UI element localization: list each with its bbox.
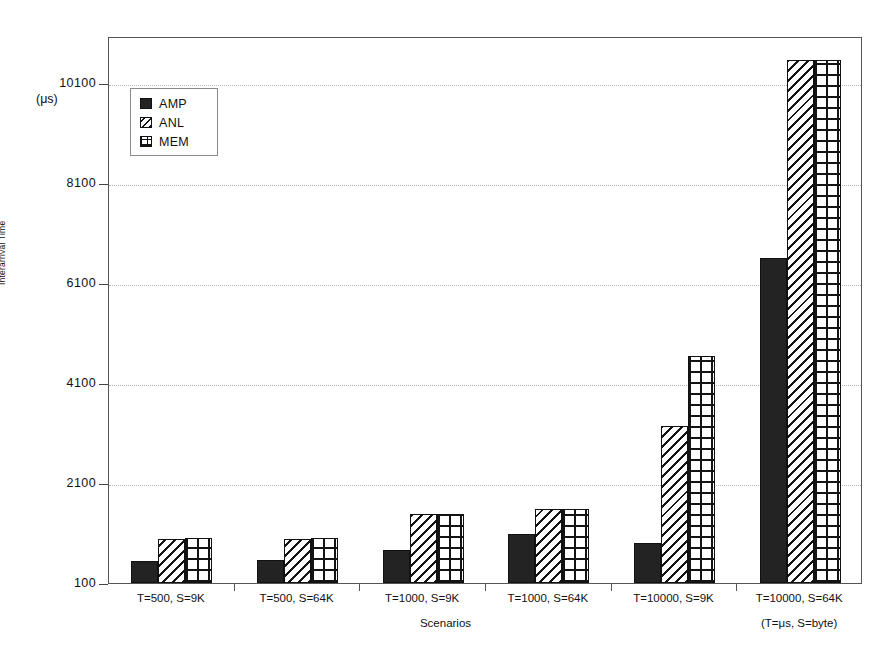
bar-mem-2 (437, 514, 464, 584)
y-tick-mark (99, 384, 108, 385)
bar-mem-0 (185, 538, 212, 583)
bar-mem-3 (562, 509, 589, 584)
bar-anl-4 (661, 426, 688, 583)
legend-item-mem: MEM (140, 132, 217, 151)
gridline (109, 85, 861, 86)
bar-amp-3 (508, 534, 535, 583)
x-tick-label: T=500, S=64K (227, 592, 367, 604)
gridline (109, 285, 861, 286)
bar-amp-5 (760, 258, 787, 583)
y-tick-label: 4100 (67, 376, 96, 390)
legend-label-anl: ANL (159, 116, 184, 130)
y-tick-mark (99, 584, 108, 585)
bar-amp-2 (383, 550, 410, 583)
y-tick-mark (99, 84, 108, 85)
y-tick-mark (99, 284, 108, 285)
x-tick-mark (234, 584, 235, 591)
x-tick-label: T=1000, S=64K (478, 592, 618, 604)
y-tick-label: 10100 (59, 76, 96, 90)
x-tick-label: T=10000, S=9K (604, 592, 744, 604)
gridline (109, 385, 861, 386)
legend-label-mem: MEM (159, 135, 189, 149)
x-axis-note: (T=μs, S=byte) (729, 617, 869, 629)
legend: AMP ANL MEM (130, 88, 218, 156)
legend-item-amp: AMP (140, 94, 217, 113)
y-tick-label: 2100 (67, 476, 96, 490)
x-tick-label: T=1000, S=9K (352, 592, 492, 604)
x-tick-mark (485, 584, 486, 591)
y-tick-label: 6100 (67, 276, 96, 290)
bar-amp-1 (257, 560, 284, 583)
legend-swatch-diagonal-icon (140, 117, 152, 128)
x-tick-mark (611, 584, 612, 591)
y-tick-mark (99, 184, 108, 185)
y-axis-unit-label: (μs) (36, 92, 58, 106)
bar-mem-1 (311, 538, 338, 583)
plot-area (108, 37, 862, 584)
x-tick-mark (359, 584, 360, 591)
bar-mem-4 (688, 356, 715, 583)
legend-item-anl: ANL (140, 113, 217, 132)
bar-anl-1 (284, 539, 311, 584)
legend-label-amp: AMP (159, 97, 187, 111)
chart-figure: 100210041006100810010100 (μs) Interarriv… (0, 0, 891, 657)
x-tick-label: T=10000, S=64K (729, 592, 869, 604)
y-tick-label: 100 (74, 576, 96, 590)
bar-anl-5 (787, 60, 814, 583)
y-axis-title: Interarrival Time (0, 221, 7, 285)
bar-amp-0 (131, 561, 158, 583)
bar-amp-4 (634, 543, 661, 583)
bar-anl-2 (410, 514, 437, 583)
gridline (109, 485, 861, 486)
legend-swatch-grid-icon (140, 136, 152, 147)
x-tick-mark (736, 584, 737, 591)
bar-anl-3 (535, 509, 562, 583)
gridline (109, 185, 861, 186)
x-tick-label: T=500, S=9K (101, 592, 241, 604)
bar-mem-5 (814, 60, 841, 583)
y-tick-label: 8100 (67, 176, 96, 190)
legend-swatch-solid-icon (140, 98, 152, 109)
bar-anl-0 (158, 539, 185, 583)
y-tick-mark (99, 484, 108, 485)
